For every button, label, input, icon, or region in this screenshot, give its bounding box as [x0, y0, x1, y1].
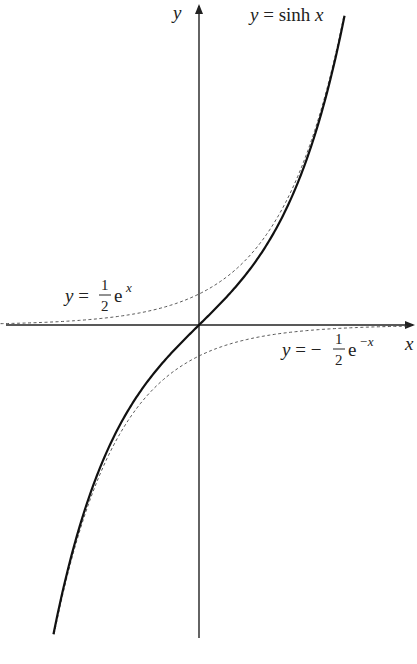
svg-text:x: x [125, 280, 132, 295]
svg-text:2: 2 [101, 298, 109, 314]
neg-half-exp-label: y = − 1 2 e −x [280, 331, 374, 368]
svg-text:y =: y = [63, 285, 89, 306]
curve-half-exp [1, 16, 344, 324]
svg-text:e: e [114, 285, 122, 306]
x-axis-label: x [404, 333, 414, 354]
sinh-label: y = sinh x [248, 4, 324, 25]
svg-text:e: e [348, 339, 356, 360]
curve-neg-half-exp [54, 326, 407, 634]
sinh-plot: y x y = sinh x y = 1 2 e x y = − 1 2 e −… [0, 0, 417, 664]
svg-text:1: 1 [101, 277, 109, 293]
svg-text:2: 2 [335, 352, 343, 368]
y-axis-label: y [171, 2, 182, 23]
half-exp-label: y = 1 2 e x [63, 277, 132, 314]
svg-text:1: 1 [335, 331, 343, 347]
svg-text:−x: −x [359, 334, 374, 349]
svg-text:y = −: y = − [280, 339, 321, 360]
